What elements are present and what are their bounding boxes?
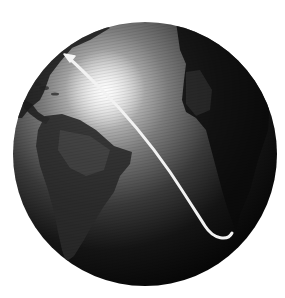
globe-illustration [0, 0, 285, 298]
globe [0, 0, 285, 298]
